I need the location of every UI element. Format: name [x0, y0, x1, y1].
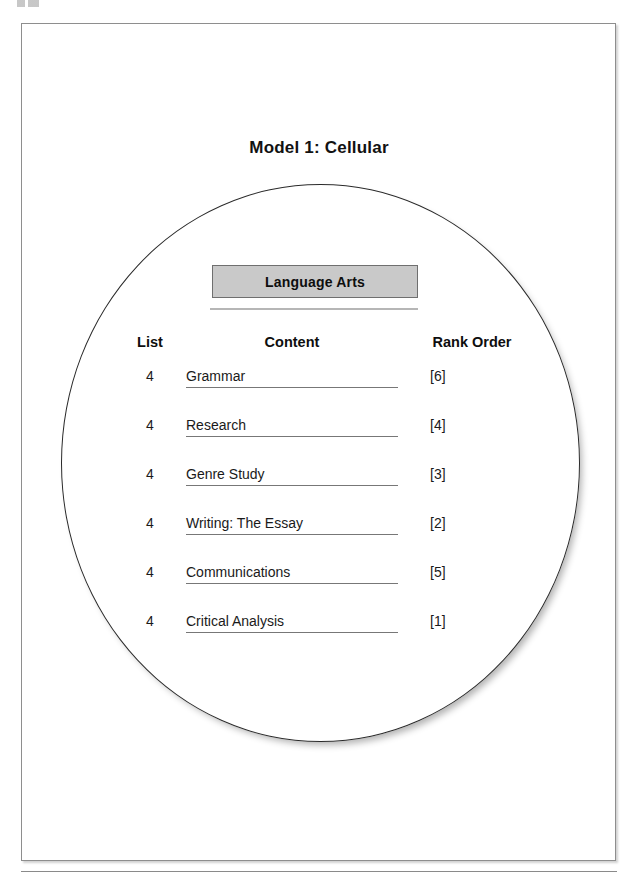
list-value: 4: [120, 417, 180, 433]
rank-value: [2]: [430, 515, 446, 531]
rank-value: [3]: [430, 466, 446, 482]
content-value: Genre Study: [186, 466, 398, 486]
cell-rank: [5]: [430, 564, 520, 580]
cell-list: 4: [120, 564, 180, 580]
table-row: 4 Genre Study [3]: [0, 466, 638, 515]
content-value: Writing: The Essay: [186, 515, 398, 535]
table-header-row: List Content Rank Order: [0, 334, 638, 368]
cell-list: 4: [120, 613, 180, 629]
cell-rank: [1]: [430, 613, 520, 629]
cell-content: Writing: The Essay: [186, 515, 398, 535]
cell-list: 4: [120, 368, 180, 384]
column-header-rank-order: Rank Order: [412, 334, 532, 350]
list-value: 4: [120, 515, 180, 531]
subject-header-box: Language Arts: [212, 265, 418, 298]
rank-value: [1]: [430, 613, 446, 629]
model-content-area: Language Arts List Content Rank Order 4 …: [0, 0, 638, 881]
rank-value: [6]: [430, 368, 446, 384]
content-table: List Content Rank Order 4 Grammar [6] 4 …: [0, 334, 638, 662]
content-value: Critical Analysis: [186, 613, 398, 633]
table-row: 4 Grammar [6]: [0, 368, 638, 417]
cell-content: Critical Analysis: [186, 613, 398, 633]
cell-content: Grammar: [186, 368, 398, 388]
subject-underline: [210, 308, 418, 310]
cell-content: Research: [186, 417, 398, 437]
cell-rank: [6]: [430, 368, 520, 384]
content-value: Communications: [186, 564, 398, 584]
list-value: 4: [120, 564, 180, 580]
content-value: Grammar: [186, 368, 398, 388]
list-value: 4: [120, 613, 180, 629]
cell-rank: [3]: [430, 466, 520, 482]
cell-list: 4: [120, 515, 180, 531]
table-row: 4 Writing: The Essay [2]: [0, 515, 638, 564]
cell-content: Communications: [186, 564, 398, 584]
list-value: 4: [120, 466, 180, 482]
cell-list: 4: [120, 417, 180, 433]
rank-value: [5]: [430, 564, 446, 580]
column-header-list: List: [120, 334, 180, 350]
cell-rank: [2]: [430, 515, 520, 531]
table-row: 4 Research [4]: [0, 417, 638, 466]
cell-list: 4: [120, 466, 180, 482]
subject-header-label: Language Arts: [265, 274, 365, 290]
column-header-content: Content: [186, 334, 398, 350]
cell-rank: [4]: [430, 417, 520, 433]
rank-value: [4]: [430, 417, 446, 433]
list-value: 4: [120, 368, 180, 384]
cell-content: Genre Study: [186, 466, 398, 486]
table-row: 4 Communications [5]: [0, 564, 638, 613]
table-row: 4 Critical Analysis [1]: [0, 613, 638, 662]
content-value: Research: [186, 417, 398, 437]
